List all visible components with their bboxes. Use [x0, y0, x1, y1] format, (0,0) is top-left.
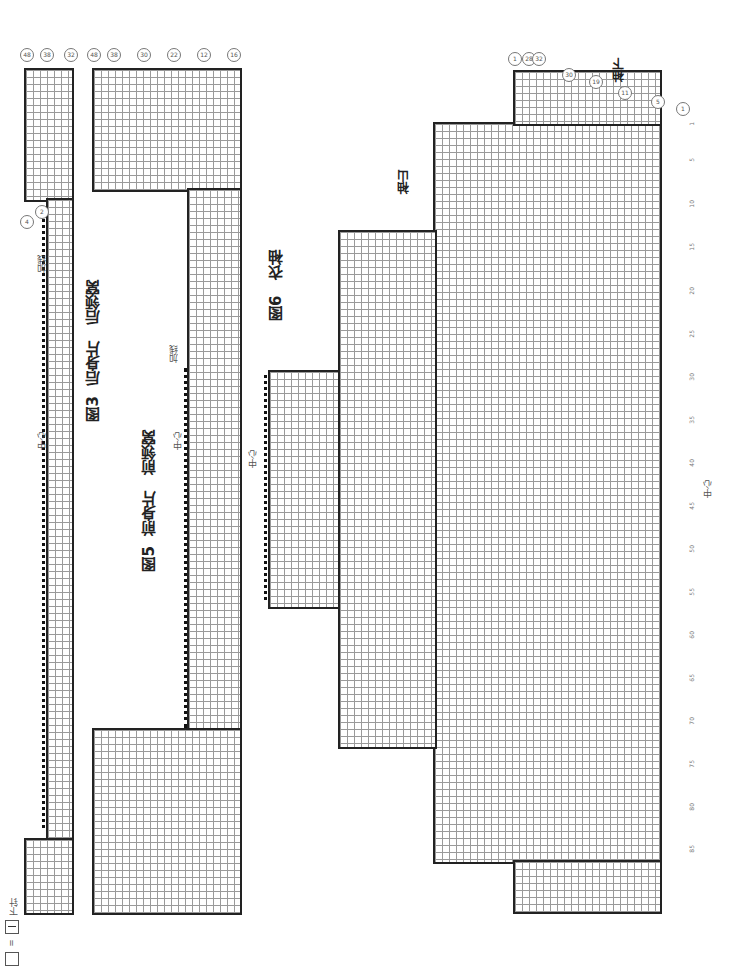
fig6-center-label-side: 中心 [700, 480, 713, 498]
fig5-row-marker: 16 [227, 48, 241, 62]
fig3-row-marker: 48 [20, 48, 34, 62]
fig6-top-marker: 19 [589, 75, 603, 89]
fig5-row-marker: 22 [167, 48, 181, 62]
legend-label: 下针 [6, 898, 19, 916]
fig6-row-number: 80 [688, 803, 695, 811]
fig6-top-marker: 1 [508, 52, 522, 66]
fig6-top-marker: 11 [618, 86, 632, 100]
fig6-row-number: 15 [688, 243, 695, 251]
fig5-row-marker: 12 [197, 48, 211, 62]
fig3-center-label: 中心 [34, 432, 47, 450]
fig6-row-number: 55 [688, 588, 695, 596]
fig5-chart [92, 68, 242, 913]
fig3-dotted-line [42, 208, 45, 828]
fig6-row-number: 1 [688, 122, 695, 126]
fig3-row-marker: 2 [35, 205, 49, 219]
fig6-row-number: 25 [688, 330, 695, 338]
fig6-grid-bottom-step [513, 860, 662, 914]
fig6-row-number: 40 [688, 459, 695, 467]
fig3-chart [24, 68, 74, 913]
fig6-top-marker: 1 [676, 102, 690, 116]
fig6-grid-body [433, 122, 662, 864]
fig3-row-marker: 38 [40, 48, 54, 62]
fig6-top-marker: 30 [562, 68, 576, 82]
fig5-grid-neck [187, 188, 242, 732]
fig3-row-marker: 4 [20, 215, 34, 229]
blank-square-icon [5, 952, 19, 966]
fig6-row-number: 35 [688, 416, 695, 424]
fig6-underarm-label: 袖下 [610, 58, 627, 82]
fig6-row-number: 60 [688, 631, 695, 639]
fig6-row-number: 70 [688, 717, 695, 725]
fig5-name: 前身片 [140, 491, 158, 536]
fig6-grid-top-step [513, 70, 662, 126]
fig5-title: 图5 [140, 546, 158, 571]
fig6-row-number: 45 [688, 502, 695, 510]
fig6-row-number: 65 [688, 674, 695, 682]
fig6-chart [268, 70, 668, 915]
fig5-row-marker: 30 [137, 48, 151, 62]
fig5-subtitle: 前领窝 [140, 430, 158, 475]
fig5-title-group: 图5 前身片 前领窝 [138, 430, 159, 572]
fig6-row-number: 85 [688, 845, 695, 853]
fig6-row-number: 10 [688, 200, 695, 208]
fig6-title: 图6 [267, 296, 285, 321]
fig6-row-number: 75 [688, 760, 695, 768]
fig3-grid-bottom [24, 838, 74, 915]
fig5-center-label: 中心 [170, 432, 183, 450]
fig6-dotted-line [264, 375, 267, 600]
knit-symbol-icon [5, 920, 19, 934]
fig5-increase-label: 加线 [166, 345, 179, 363]
fig3-grid-middle [46, 198, 74, 842]
legend: 下针 = [5, 898, 19, 966]
fig6-name: 衣袖 [267, 250, 285, 280]
fig6-row-number: 5 [688, 158, 695, 162]
fig5-row-marker: 48 [87, 48, 101, 62]
fig6-top-marker: 5 [651, 95, 665, 109]
fig3-row-marker: 32 [64, 48, 78, 62]
fig6-cap-label: 袖山 [395, 170, 412, 194]
fig5-grid-bottom [92, 728, 242, 915]
fig6-row-number: 50 [688, 545, 695, 553]
fig6-row-number: 20 [688, 287, 695, 295]
fig3-grid [24, 68, 74, 202]
fig5-row-marker: 38 [107, 48, 121, 62]
fig3-increase-label: 加线 [34, 255, 47, 273]
legend-equals: = [7, 939, 17, 947]
fig6-grid-cap-upper [338, 230, 437, 749]
fig5-dotted-line [184, 368, 187, 728]
fig5-grid-top [92, 68, 242, 192]
fig6-title-group: 图6 衣袖 [265, 250, 286, 321]
fig6-row-number: 30 [688, 373, 695, 381]
fig6-top-marker: 32 [532, 52, 546, 66]
fig6-center-label-top: 中心 [245, 450, 258, 468]
